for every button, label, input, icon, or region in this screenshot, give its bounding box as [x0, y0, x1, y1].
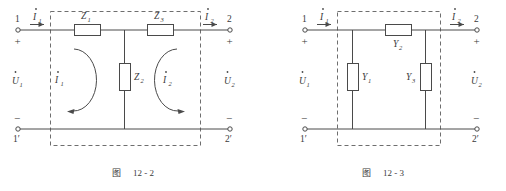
figure-12-3: 1 + 2 + − 1′ − 2′ U 1 U 2 I 1 I 2: [0, 0, 506, 191]
terminal-2-node: [475, 28, 479, 32]
admittance-y1-label: Y 1: [362, 72, 371, 84]
figures-container: 1 + 2 + − 1′ − 2′ U 1 U 2 I 1 I: [0, 0, 506, 191]
admittance-y3-body: [421, 64, 432, 91]
terminal-1-prime-polarity: −: [301, 112, 307, 124]
terminal-2-prime-polarity: −: [473, 112, 479, 124]
svg-text:I: I: [451, 12, 456, 22]
terminal-2-prime-label: 2′: [472, 134, 479, 144]
voltage-u2-label: U 2: [471, 71, 483, 88]
voltage-u1-label: U 1: [299, 71, 310, 88]
terminal-1-polarity: +: [302, 35, 308, 47]
admittance-y2-label: Y 2: [393, 39, 403, 51]
terminal-1-label: 1: [302, 14, 307, 24]
current-i1-label: I 1: [319, 8, 329, 24]
svg-text:1: 1: [326, 17, 329, 24]
terminal-2-prime-node: [475, 127, 479, 131]
svg-text:2: 2: [458, 17, 462, 24]
current-i1-arrow: [317, 22, 331, 27]
admittance-y1-body: [348, 64, 359, 91]
figure-12-3-caption-number: 12 - 3: [383, 168, 404, 178]
svg-text:2: 2: [479, 81, 483, 88]
svg-text:I: I: [319, 12, 324, 22]
terminal-1-node: [303, 28, 307, 32]
svg-text:1: 1: [307, 81, 310, 88]
terminal-2-label: 2: [474, 14, 479, 24]
terminal-1-prime-node: [303, 127, 307, 131]
terminal-2-polarity: +: [474, 35, 480, 47]
admittance-y2-body: [386, 25, 412, 36]
admittance-y3-label: Y 3: [406, 72, 416, 84]
current-i2-label: I 2: [451, 8, 462, 24]
svg-text:1: 1: [368, 77, 371, 84]
svg-text:3: 3: [411, 77, 416, 84]
figure-12-3-caption-cn: 图: [362, 168, 371, 178]
terminal-1-prime-label: 1′: [300, 134, 307, 144]
svg-text:2: 2: [399, 44, 403, 51]
